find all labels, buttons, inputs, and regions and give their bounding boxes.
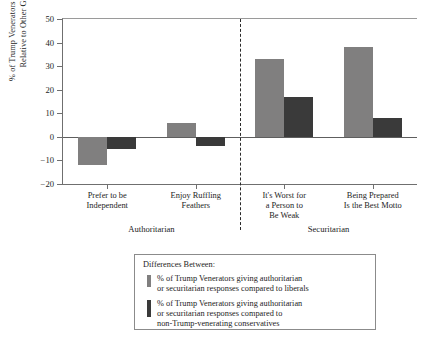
group-label-authoritarian: Authoritarian <box>128 224 174 234</box>
y-axis-title-line-1: % of Trump Venerators Agreeing <box>8 0 19 113</box>
legend-entry-liberals: % of Trump Venerators giving authoritari… <box>143 274 368 294</box>
legend-swatch-light <box>147 275 151 287</box>
group-label-securitarian: Securitarian <box>308 224 350 234</box>
x-axis-label-2-line-1: a Person to <box>263 201 306 211</box>
y-axis-tick-label: −10 <box>41 155 54 165</box>
legend-label-conservatives-line-1: % of Trump Venerators giving authoritari… <box>157 299 302 309</box>
plot-area: 50403020100−10−20Prefer to beIndependent… <box>62 18 417 185</box>
y-axis-title: % of Trump Venerators Agreeing Relative … <box>8 0 29 113</box>
bar-liberals-3 <box>344 47 373 137</box>
y-axis-tick <box>57 19 63 20</box>
x-axis-tick <box>373 184 374 189</box>
x-axis-label-1: Enjoy RufflingFeathers <box>171 191 221 211</box>
y-axis-tick-label: −20 <box>41 179 54 189</box>
x-axis-label-2-line-2: Be Weak <box>263 211 306 221</box>
y-axis-tick <box>57 113 63 114</box>
x-axis-label-1-line-0: Enjoy Ruffling <box>171 191 221 201</box>
bar-conservatives-3 <box>373 118 402 137</box>
x-axis-label-3-line-0: Being Prepared <box>344 191 402 201</box>
bar-conservatives-0 <box>107 137 136 149</box>
y-axis-tick-label: 30 <box>45 61 54 71</box>
y-axis-tick <box>57 160 63 161</box>
x-axis-label-2-line-0: It's Worst for <box>263 191 306 201</box>
legend-entry-conservatives: % of Trump Venerators giving authoritari… <box>143 299 368 329</box>
y-axis-title-line-2: Relative to Other Groups <box>18 0 29 113</box>
legend-label-liberals-line-1: % of Trump Venerators giving authoritari… <box>157 274 309 284</box>
legend-label-liberals-line-2: or securitarian responses compared to li… <box>157 284 309 294</box>
x-axis-label-0-line-1: Independent <box>87 201 128 211</box>
bar-liberals-1 <box>167 123 196 137</box>
x-axis-tick <box>196 184 197 189</box>
y-axis-tick-label: 50 <box>45 14 54 24</box>
y-axis-tick-label: 40 <box>45 38 54 48</box>
bar-conservatives-1 <box>196 137 225 146</box>
legend-label-conservatives: % of Trump Venerators giving authoritari… <box>157 299 302 329</box>
x-axis-tick <box>284 184 285 189</box>
y-axis-tick-label: 0 <box>50 132 54 142</box>
y-axis-tick <box>57 184 63 185</box>
x-axis-label-3: Being PreparedIs the Best Motto <box>344 191 402 211</box>
chart-legend: Differences Between: % of Trump Venerato… <box>134 254 376 330</box>
bar-liberals-0 <box>78 137 107 165</box>
legend-label-conservatives-line-2: or securitarian responses compared to <box>157 309 302 319</box>
y-axis-tick <box>57 43 63 44</box>
legend-label-liberals: % of Trump Venerators giving authoritari… <box>157 274 309 294</box>
x-axis-label-1-line-1: Feathers <box>171 201 221 211</box>
y-axis-tick-label: 20 <box>45 85 54 95</box>
bar-liberals-2 <box>255 59 284 137</box>
x-axis-tick <box>107 184 108 189</box>
bar-conservatives-2 <box>284 97 313 137</box>
x-axis-label-2: It's Worst fora Person toBe Weak <box>263 191 306 222</box>
y-axis-tick <box>57 90 63 91</box>
group-divider <box>240 19 241 230</box>
x-axis-label-0: Prefer to beIndependent <box>87 191 128 211</box>
chart-figure: % of Trump Venerators Agreeing Relative … <box>0 0 431 344</box>
x-axis-label-0-line-0: Prefer to be <box>87 191 128 201</box>
legend-swatch-dark <box>147 300 151 317</box>
y-axis-tick-label: 10 <box>45 108 54 118</box>
y-axis-tick <box>57 66 63 67</box>
x-axis-label-3-line-1: Is the Best Motto <box>344 201 402 211</box>
legend-label-conservatives-line-3: non-Trump-venerating conservatives <box>157 319 302 329</box>
legend-title: Differences Between: <box>143 260 368 270</box>
